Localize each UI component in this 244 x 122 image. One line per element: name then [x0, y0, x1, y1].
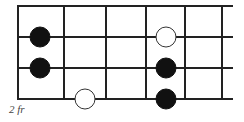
frets: [18, 5, 222, 100]
filled-note-dot: [156, 89, 176, 109]
fretboard-diagram: [0, 0, 244, 122]
filled-note-dot: [156, 58, 176, 78]
filled-note-dot: [30, 27, 50, 47]
open-note-dot: [156, 27, 176, 47]
strings: [18, 6, 233, 99]
fret-position-label: 2 fr: [9, 103, 25, 115]
open-note-dot: [75, 89, 95, 109]
filled-note-dot: [30, 58, 50, 78]
